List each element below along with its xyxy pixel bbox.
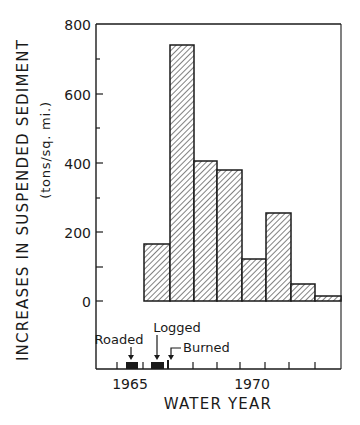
- bar-1971: [266, 213, 291, 301]
- bar-1967: [170, 45, 194, 301]
- y-tick-600: 600: [64, 87, 91, 103]
- bar-1970: [242, 259, 266, 301]
- y-tick-400: 400: [64, 156, 91, 172]
- y-tick-200: 200: [64, 225, 91, 241]
- y-tick-0: 0: [82, 294, 91, 310]
- x-axis-label: WATER YEAR: [164, 395, 272, 413]
- bar-1966: [144, 244, 170, 301]
- sediment-bar-chart: INCREASES IN SUSPENDED SEDIMENT (tons/sq…: [0, 0, 360, 425]
- bar-1969: [217, 170, 242, 301]
- roaded-label: Roaded: [95, 332, 144, 347]
- roaded-arrowhead-icon: [128, 355, 134, 360]
- x-tick-1970: 1970: [234, 376, 270, 392]
- bar-1972: [291, 284, 315, 301]
- y-axis-tick-labels: 800 600 400 200 0: [64, 17, 91, 310]
- burned-label: Burned: [183, 340, 230, 355]
- burned-arrowhead-icon: [168, 355, 174, 360]
- event-markers: Roaded Logged Burned: [95, 320, 230, 369]
- logged-arrowhead-icon: [154, 355, 160, 360]
- x-tick-1965: 1965: [112, 376, 148, 392]
- roaded-marker: [126, 362, 138, 369]
- bar-1968: [194, 161, 217, 301]
- logged-marker: [151, 362, 164, 369]
- bar-1973: [315, 296, 341, 301]
- y-tick-800: 800: [64, 17, 91, 33]
- x-axis-ticks: [117, 362, 315, 369]
- y-axis-ticks: [96, 59, 103, 301]
- y-axis-units: (tons/sq. mi.): [38, 101, 53, 198]
- bars: [144, 45, 341, 301]
- y-axis-label: INCREASES IN SUSPENDED SEDIMENT: [14, 39, 32, 361]
- logged-label: Logged: [153, 320, 201, 335]
